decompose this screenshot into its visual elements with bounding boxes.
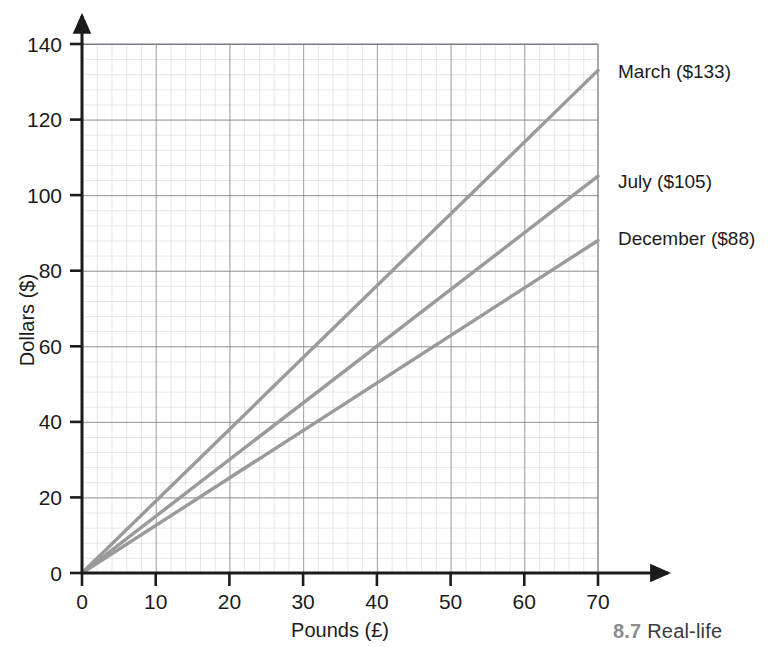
- x-tick-label-70: 70: [586, 590, 609, 613]
- y-tick-label-60: 60: [39, 335, 62, 358]
- x-axis-ticks: [82, 573, 598, 586]
- y-tick-label-0: 0: [50, 562, 62, 585]
- chart-container: 0 20 40 60 80 100 120 140 0 10 20 30 40 …: [0, 0, 769, 647]
- y-axis-ticks: [70, 44, 82, 573]
- x-tick-label-50: 50: [439, 590, 462, 613]
- y-tick-label-140: 140: [27, 33, 62, 56]
- series-label-march: March ($133): [618, 61, 731, 82]
- footer-running-head: 8.7 Real-life: [613, 620, 722, 643]
- line-chart-figure: 0 20 40 60 80 100 120 140 0 10 20 30 40 …: [0, 0, 769, 647]
- y-tick-label-100: 100: [27, 184, 62, 207]
- y-axis-title: Dollars ($): [16, 274, 38, 366]
- series-labels-group: March ($133) July ($105) December ($88): [618, 61, 755, 249]
- x-tick-label-0: 0: [76, 590, 88, 613]
- x-tick-label-10: 10: [144, 590, 167, 613]
- x-tick-label-20: 20: [218, 590, 241, 613]
- x-axis-tick-labels: 0 10 20 30 40 50 60 70: [76, 590, 610, 613]
- series-label-july: July ($105): [618, 171, 712, 192]
- y-tick-label-120: 120: [27, 108, 62, 131]
- plot-grid: [82, 44, 598, 573]
- x-axis-title: Pounds (£): [291, 619, 389, 641]
- footer-section-title: Real-life: [647, 620, 722, 642]
- x-tick-label-60: 60: [513, 590, 536, 613]
- y-tick-label-80: 80: [39, 259, 62, 282]
- x-tick-label-30: 30: [291, 590, 314, 613]
- y-tick-label-40: 40: [39, 410, 62, 433]
- footer-section-number: 8.7: [613, 620, 641, 642]
- series-label-december: December ($88): [618, 228, 755, 249]
- x-tick-label-40: 40: [365, 590, 388, 613]
- y-tick-label-20: 20: [39, 486, 62, 509]
